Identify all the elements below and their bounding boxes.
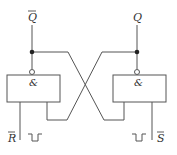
left-and-symbol: & — [29, 77, 38, 88]
left-junction-dot — [30, 50, 35, 55]
left-inversion-bubble — [30, 70, 35, 75]
r-pulse-icon — [28, 134, 42, 141]
rs-latch-diagram: Q Q & & R S — [0, 0, 177, 155]
q-bar-label: Q — [28, 11, 37, 24]
feedback-qbar-to-right — [32, 52, 124, 120]
right-junction-dot — [135, 50, 140, 55]
s-pulse-icon — [132, 134, 146, 141]
right-inversion-bubble — [135, 70, 140, 75]
s-bar-label: S — [157, 132, 165, 145]
r-bar-label: R — [7, 132, 16, 145]
right-and-symbol: & — [134, 77, 143, 88]
q-label: Q — [133, 11, 142, 24]
